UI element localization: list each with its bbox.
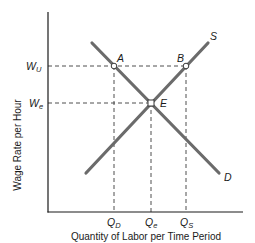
y-axis-title: Wage Rate per Hour	[12, 99, 23, 191]
point-e-marker	[148, 100, 154, 106]
x-tick-qd: QD	[107, 216, 121, 230]
y-tick-we: We	[29, 97, 43, 111]
x-axis-title: Quantity of Labor per Time Period	[71, 231, 221, 242]
point-a-label: A	[116, 52, 124, 64]
demand-curve-label: D	[224, 171, 232, 183]
point-b-marker	[183, 63, 189, 69]
supply-curve-label: S	[210, 30, 217, 42]
demand-curve	[92, 43, 219, 173]
labor-market-diagram: A B E S D WU We QD Qe QS Wage Rate per H…	[0, 0, 255, 243]
supply-curve	[86, 43, 208, 173]
point-b-label: B	[177, 52, 184, 64]
point-a-marker	[111, 63, 117, 69]
point-e-label: E	[160, 97, 168, 109]
x-tick-qs: QS	[180, 216, 193, 230]
x-tick-qe: Qe	[145, 216, 157, 230]
y-tick-wu: WU	[26, 60, 42, 74]
